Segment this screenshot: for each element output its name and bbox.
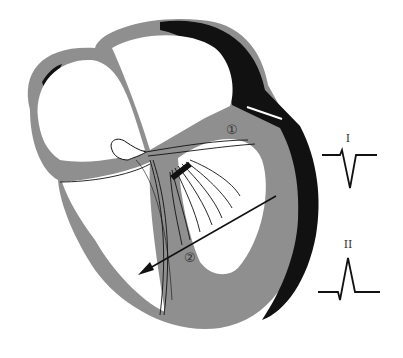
ecg-lead-II-label: II	[344, 238, 353, 251]
heart-diagram: ① ② I II	[0, 0, 403, 358]
ecg-lead-I-label: I	[346, 132, 350, 145]
ecg-lead-II: II	[318, 238, 380, 300]
marker-2: ②	[184, 250, 196, 265]
ecg-lead-I: I	[322, 132, 377, 188]
marker-1: ①	[226, 122, 238, 137]
